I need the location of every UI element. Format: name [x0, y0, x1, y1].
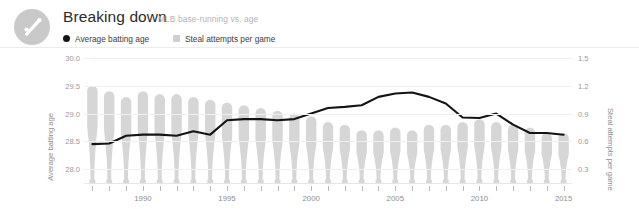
x-axis-tick: [463, 186, 464, 191]
x-axis-tick: [412, 186, 413, 191]
y-axis-left-tick-label: 29.5: [56, 82, 80, 91]
legend-item-steal-attempts[interactable]: Steal attempts per game: [173, 29, 275, 41]
y-axis-left-tick-label: 30.0: [56, 54, 80, 63]
x-axis-tick: [429, 186, 430, 191]
plot-area: [84, 58, 572, 183]
x-axis-tick: [278, 186, 279, 191]
x-axis-tick: [446, 186, 447, 191]
x-axis-tick-label: 1990: [134, 194, 151, 203]
x-axis-tick: [227, 186, 228, 191]
x-axis-tick: [177, 186, 178, 191]
batting-age-line: [92, 92, 563, 144]
legend-dot-icon: [63, 35, 70, 42]
x-axis-tick: [328, 186, 329, 191]
x-axis-tick: [193, 186, 194, 191]
chart-widget: Breaking down MLB base-running vs. age A…: [0, 0, 639, 209]
x-axis-tick: [547, 186, 548, 191]
x-axis-tick: [479, 186, 480, 191]
line-series-batting-age: [84, 58, 572, 183]
x-axis-tick: [496, 186, 497, 191]
x-axis-tick: [143, 186, 144, 191]
x-axis-tick-label: 2015: [555, 194, 572, 203]
y-axis-left-tick-label: 29.0: [56, 110, 80, 119]
x-axis-tick-label: 2010: [471, 194, 488, 203]
gridline: [84, 58, 572, 59]
x-axis-tick: [378, 186, 379, 191]
y-axis-left-tick-label: 28.5: [56, 137, 80, 146]
x-axis-tick: [244, 186, 245, 191]
x-axis-tick-label: 2000: [302, 194, 319, 203]
x-axis-baseline: [84, 183, 572, 184]
x-axis-tick: [564, 186, 565, 191]
legend-label: Steal attempts per game: [185, 34, 275, 44]
x-axis-tick: [395, 186, 396, 191]
x-axis-tick: [109, 186, 110, 191]
x-axis-tick: [126, 186, 127, 191]
x-axis-tick: [92, 186, 93, 191]
gridline: [84, 141, 572, 142]
x-axis-tick: [261, 186, 262, 191]
legend-item-batting-age[interactable]: Average batting age: [63, 29, 149, 41]
x-axis-tick: [345, 186, 346, 191]
x-axis-tick: [362, 186, 363, 191]
x-axis-tick: [160, 186, 161, 191]
gridline: [84, 86, 572, 87]
x-axis-tick: [513, 186, 514, 191]
baseball-bat-and-ball-icon: [14, 9, 50, 45]
x-axis-tick-label: 2005: [387, 194, 404, 203]
y-axis-right-tick-label: 0.3: [578, 165, 589, 174]
x-axis-tick: [311, 186, 312, 191]
chart-body: 30.029.529.028.528.0 1.51.20.90.60.3 199…: [0, 47, 639, 209]
y-axis-left-tick-label: 28.0: [56, 165, 80, 174]
legend-label: Average batting age: [75, 34, 149, 44]
legend-square-icon: [173, 35, 180, 42]
y-axis-right-title: Steal attempts per game: [606, 108, 615, 191]
x-axis-tick: [530, 186, 531, 191]
y-axis-right-tick-label: 1.5: [578, 54, 589, 63]
y-axis-left-title: Average batting age: [46, 113, 55, 181]
gridline: [84, 114, 572, 115]
x-axis-tick: [294, 186, 295, 191]
page-subtitle: MLB base-running vs. age: [158, 14, 258, 24]
y-axis-right-tick-label: 0.9: [578, 110, 589, 119]
x-axis-tick: [210, 186, 211, 191]
y-axis-right-tick-label: 0.6: [578, 137, 589, 146]
gridline: [84, 169, 572, 170]
chart-header: Breaking down MLB base-running vs. age A…: [0, 0, 639, 47]
page-title: Breaking down: [63, 8, 167, 26]
x-axis-tick-label: 1995: [218, 194, 235, 203]
y-axis-right-tick-label: 1.2: [578, 82, 589, 91]
